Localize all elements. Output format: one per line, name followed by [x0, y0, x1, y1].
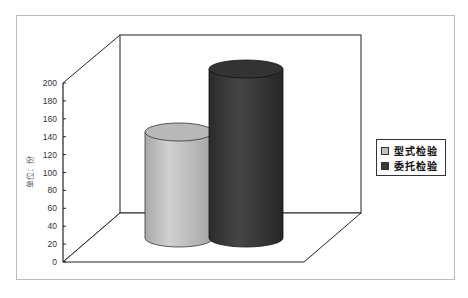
tick-label: 60 [48, 203, 58, 213]
tick-label: 140 [43, 132, 57, 142]
tick-label: 100 [43, 168, 57, 178]
tick-label: 180 [43, 96, 57, 106]
legend-swatch-light [381, 147, 389, 155]
tick-label: 80 [48, 185, 58, 195]
tick-label: 20 [48, 239, 58, 249]
tick-label: 200 [43, 78, 57, 88]
legend-item-commission-inspection: 委托检验 [381, 158, 441, 173]
side-wall-top-edge [63, 35, 120, 83]
legend: 型式检验 委托检验 [376, 139, 446, 176]
tick-label: 40 [48, 221, 58, 231]
legend-item-type-inspection: 型式检验 [381, 143, 441, 158]
legend-swatch-dark [381, 162, 389, 170]
legend-label: 型式检验 [394, 143, 438, 158]
tick-label: 120 [43, 150, 57, 160]
legend-label: 委托检验 [394, 158, 438, 173]
tick-label: 0 [52, 257, 57, 267]
y-axis-title: 单位：份 [25, 156, 35, 188]
y-axis-tick-labels: 0 20 40 60 80 100 120 140 160 180 200 [43, 78, 57, 267]
bar-commission-inspection [209, 60, 283, 247]
tick-label: 160 [43, 114, 57, 124]
bar-type-inspection [145, 123, 213, 247]
